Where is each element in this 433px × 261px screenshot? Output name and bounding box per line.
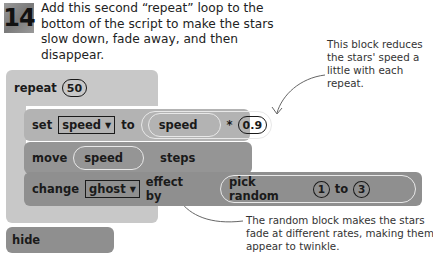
change-label: change xyxy=(32,182,79,196)
effect-dropdown-value: ghost xyxy=(89,182,126,196)
random-from-input[interactable]: 1 xyxy=(313,181,330,198)
set-label: set xyxy=(32,118,52,132)
factor-input[interactable]: 0.9 xyxy=(238,116,268,134)
dropdown-arrow-icon: ▼ xyxy=(130,185,136,194)
speed-reporter-move[interactable]: speed xyxy=(73,146,144,170)
speed-reporter[interactable]: speed xyxy=(148,113,221,137)
pick-random-label: pick random xyxy=(229,175,308,203)
to-label: to xyxy=(121,118,134,132)
effect-by-label: effect by xyxy=(146,175,202,203)
random-to-input[interactable]: 3 xyxy=(353,181,370,198)
hide-label: hide xyxy=(12,233,40,247)
change-effect-block[interactable]: change ghost ▼ effect by pick random 1 t… xyxy=(24,172,422,206)
multiply-operator-block[interactable]: speed * 0.9 xyxy=(141,111,272,139)
effect-dropdown[interactable]: ghost ▼ xyxy=(85,180,140,198)
move-label: move xyxy=(32,151,67,165)
variable-dropdown[interactable]: speed ▼ xyxy=(58,116,115,134)
pick-random-block[interactable]: pick random 1 to 3 xyxy=(220,175,416,203)
move-steps-block[interactable]: move speed steps xyxy=(24,142,252,174)
set-variable-block[interactable]: set speed ▼ to speed * 0.9 xyxy=(24,109,250,141)
repeat-label: repeat xyxy=(14,81,57,95)
dropdown-arrow-icon: ▼ xyxy=(105,121,111,130)
variable-dropdown-value: speed xyxy=(62,118,101,132)
multiply-symbol: * xyxy=(227,118,233,132)
repeat-count-input[interactable]: 50 xyxy=(62,79,87,97)
random-to-label: to xyxy=(335,182,348,196)
hide-block[interactable]: hide xyxy=(6,227,114,253)
repeat-block[interactable]: repeat 50 xyxy=(6,70,158,106)
steps-label: steps xyxy=(160,151,195,165)
